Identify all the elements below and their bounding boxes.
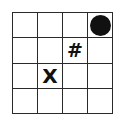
- cell-r0-c0[interactable]: [13, 13, 38, 38]
- cell-r0-c2[interactable]: [63, 13, 88, 38]
- cell-r1-c2[interactable]: #: [63, 38, 88, 63]
- cell-r1-c0[interactable]: [13, 38, 38, 63]
- cell-r3-c0[interactable]: [13, 89, 38, 114]
- cell-r3-c2[interactable]: [63, 89, 88, 114]
- hash-piece: #: [67, 41, 83, 60]
- cell-r1-c1[interactable]: [38, 38, 63, 63]
- cell-r1-c3[interactable]: [88, 38, 113, 63]
- cell-r2-c2[interactable]: [63, 64, 88, 89]
- cell-r0-c3[interactable]: [88, 13, 113, 38]
- cell-r2-c1[interactable]: X: [38, 64, 63, 89]
- circle-piece-icon: [90, 15, 111, 36]
- cell-r2-c0[interactable]: [13, 64, 38, 89]
- cell-r3-c3[interactable]: [88, 89, 113, 114]
- cell-r3-c1[interactable]: [38, 89, 63, 114]
- x-piece: X: [42, 66, 57, 86]
- cell-r0-c1[interactable]: [38, 13, 63, 38]
- game-board: # X: [12, 12, 113, 114]
- cell-r2-c3[interactable]: [88, 64, 113, 89]
